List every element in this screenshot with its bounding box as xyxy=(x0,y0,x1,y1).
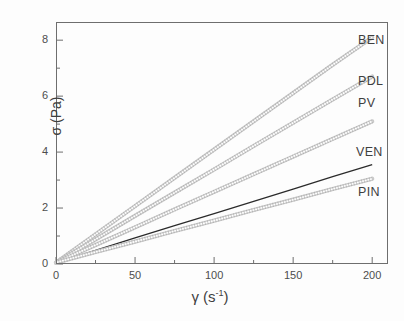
series-label-pv: PV xyxy=(358,96,375,110)
plot-frame xyxy=(56,22,388,264)
y-tick-label: 2 xyxy=(26,201,48,213)
y-tick-label: 0 xyxy=(26,257,48,269)
y-tick-label: 8 xyxy=(26,33,48,45)
x-axis-symbol: γ xyxy=(191,288,199,305)
x-tick-label: 150 xyxy=(273,269,313,281)
x-tick-label: 100 xyxy=(194,269,234,281)
x-tick-label: 50 xyxy=(115,269,155,281)
series-label-ben: BEN xyxy=(358,33,385,47)
x-axis-unit-close: ) xyxy=(224,288,229,305)
y-axis-title-text: σ (Pa) xyxy=(48,97,64,136)
x-axis-unit-exponent: -1 xyxy=(216,288,224,298)
x-tick-label: 0 xyxy=(36,269,76,281)
x-tick-label: 200 xyxy=(352,269,392,281)
series-label-ven: VEN xyxy=(356,145,383,159)
x-axis-title: γ (s-1) xyxy=(150,288,270,305)
series-label-pin: PIN xyxy=(358,185,380,199)
series-label-pdl: PDL xyxy=(358,74,383,88)
x-axis-unit-open: (s xyxy=(203,288,216,305)
y-axis-title: σ (Pa) xyxy=(48,56,64,176)
figure-container: 02468 050100150200 σ (Pa) γ (s-1) BENPDL… xyxy=(0,0,404,321)
y-tick-label: 4 xyxy=(26,145,48,157)
y-tick-label: 6 xyxy=(26,89,48,101)
